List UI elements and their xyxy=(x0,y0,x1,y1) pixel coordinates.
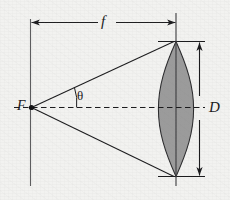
focal-length-label: f xyxy=(101,14,105,29)
lens-diagram-figure: f F D θ xyxy=(0,0,230,200)
upper-marginal-ray xyxy=(32,42,175,108)
lower-marginal-ray xyxy=(32,108,175,177)
half-angle-label: θ xyxy=(77,89,83,102)
diagram-canvas xyxy=(0,0,230,200)
focal-point-dot xyxy=(29,105,34,110)
aperture-diameter-label: D xyxy=(209,100,220,115)
focal-point-label: F xyxy=(17,99,26,113)
